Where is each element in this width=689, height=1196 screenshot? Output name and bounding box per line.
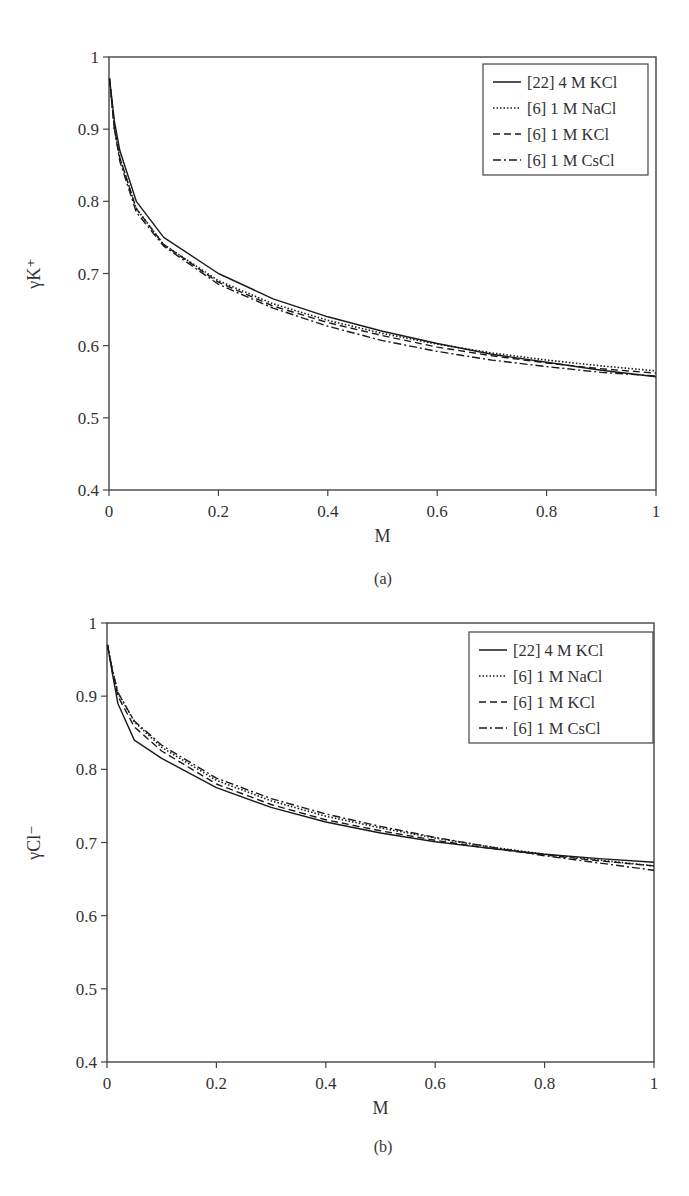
legend: [22] 4 M KCl[6] 1 M NaCl[6] 1 M KCl[6] 1… [483, 64, 648, 175]
x-tick-label: 0.8 [534, 1074, 555, 1093]
x-axis-title: M [372, 1098, 388, 1118]
x-tick-label: 0.6 [425, 1074, 446, 1093]
y-tick-label: 0.5 [76, 980, 97, 999]
x-tick-label: 0 [103, 1074, 112, 1093]
x-tick-label: 0.4 [315, 1074, 337, 1093]
y-tick-label: 0.9 [78, 120, 99, 139]
legend-label: [6] 1 M NaCl [527, 99, 617, 118]
line-chart-b: 0.40.50.60.70.80.9100.20.40.60.81MγCl⁻[2… [0, 566, 689, 1166]
y-tick-label: 0.4 [78, 481, 100, 500]
legend: [22] 4 M KCl[6] 1 M NaCl[6] 1 M KCl[6] 1… [469, 632, 653, 743]
y-tick-label: 0.4 [76, 1053, 98, 1072]
y-tick-label: 0.7 [76, 834, 98, 853]
panel-label-b: (b) [353, 1138, 413, 1156]
y-tick-label: 0.6 [78, 337, 99, 356]
y-tick-label: 1 [91, 48, 100, 67]
legend-label: [6] 1 M KCl [513, 693, 595, 712]
legend-label: [6] 1 M CsCl [527, 151, 615, 170]
chart-panel-a: 0.40.50.60.70.80.9100.20.40.60.81MγK⁺[22… [0, 0, 689, 600]
x-tick-label: 0.2 [208, 502, 229, 521]
y-tick-label: 0.7 [78, 265, 100, 284]
legend-label: [6] 1 M CsCl [513, 719, 601, 738]
y-tick-label: 0.6 [76, 907, 97, 926]
x-tick-label: 0.8 [536, 502, 557, 521]
y-tick-label: 1 [89, 614, 98, 633]
x-tick-label: 0.4 [317, 502, 339, 521]
x-tick-label: 1 [652, 502, 661, 521]
x-tick-label: 0.2 [206, 1074, 227, 1093]
y-axis-title: γCl⁻ [24, 825, 44, 860]
y-axis-title: γK⁺ [24, 258, 44, 289]
y-tick-label: 0.5 [78, 409, 99, 428]
y-tick-label: 0.8 [78, 192, 99, 211]
chart-panel-b: 0.40.50.60.70.80.9100.20.40.60.81MγCl⁻[2… [0, 566, 689, 1166]
x-tick-label: 0.6 [427, 502, 448, 521]
y-tick-label: 0.9 [76, 687, 97, 706]
legend-label: [6] 1 M NaCl [513, 667, 603, 686]
legend-label: [22] 4 M KCl [513, 641, 604, 660]
legend-label: [22] 4 M KCl [527, 73, 618, 92]
y-tick-label: 0.8 [76, 760, 97, 779]
legend-label: [6] 1 M KCl [527, 125, 609, 144]
line-chart-a: 0.40.50.60.70.80.9100.20.40.60.81MγK⁺[22… [0, 0, 689, 600]
x-tick-label: 0 [105, 502, 114, 521]
x-axis-title: M [374, 526, 390, 546]
x-tick-label: 1 [650, 1074, 659, 1093]
